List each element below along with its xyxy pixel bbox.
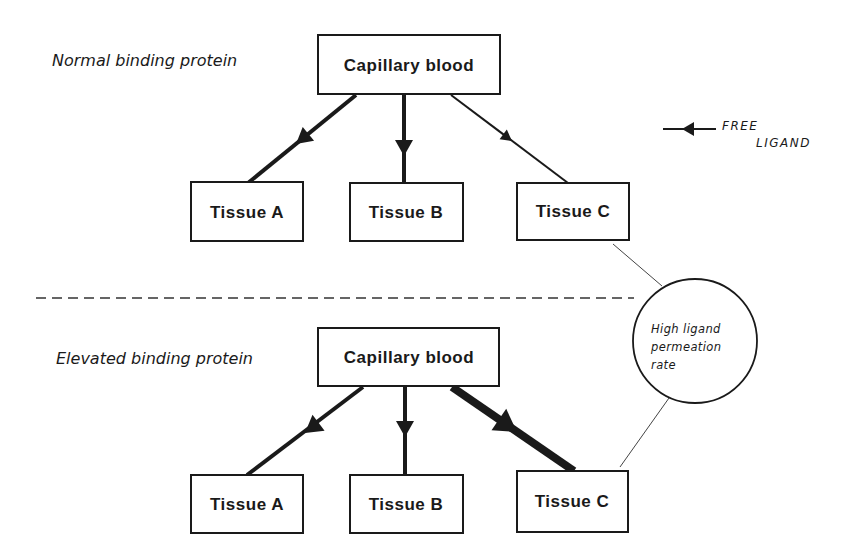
callout-permeation: High ligand permeation rate: [613, 244, 757, 467]
tissue-c-box: Tissue C: [517, 471, 628, 532]
panel-label-elevated: Elevated binding protein: [56, 349, 253, 368]
capillary-blood-label: Capillary blood: [344, 348, 474, 367]
legend-line-1: FREE: [722, 119, 758, 133]
leader-line-bottom: [620, 398, 669, 467]
capillary-blood-box: Capillary blood: [318, 328, 499, 386]
edge-blood-to-tissue-c: [452, 387, 574, 471]
callout-line-1: High ligand: [651, 322, 721, 336]
callout-line-3: rate: [651, 358, 676, 372]
tissue-b-label: Tissue B: [369, 495, 444, 514]
arrowhead-icon: [500, 130, 516, 146]
capillary-blood-label: Capillary blood: [344, 56, 474, 75]
tissue-b-box: Tissue B: [350, 475, 463, 533]
callout-line-2: permeation: [650, 340, 721, 354]
capillary-blood-box: Capillary blood: [318, 35, 500, 94]
edge-blood-to-tissue-a: [247, 387, 363, 475]
panel-elevated: Elevated binding protein Capillary blood…: [56, 328, 628, 533]
tissue-b-box: Tissue B: [350, 183, 463, 241]
edge-blood-to-tissue-b: [396, 387, 414, 475]
tissue-c-label: Tissue C: [535, 492, 610, 511]
edge-blood-to-tissue-b: [395, 95, 413, 183]
tissue-a-box: Tissue A: [191, 182, 303, 241]
tissue-a-label: Tissue A: [210, 203, 284, 222]
edge-blood-to-tissue-c: [451, 95, 568, 183]
panel-normal: Normal binding protein Capillary blood T…: [52, 35, 629, 241]
arrowhead-icon: [395, 140, 413, 156]
tissue-a-box: Tissue A: [191, 475, 303, 533]
edge-blood-to-tissue-a: [248, 95, 356, 183]
arrowhead-icon: [396, 421, 414, 437]
leader-line-top: [613, 244, 662, 286]
tissue-b-label: Tissue B: [369, 203, 444, 222]
legend-free-ligand: FREE LIGAND: [663, 119, 811, 150]
tissue-c-label: Tissue C: [536, 202, 611, 221]
tissue-c-box: Tissue C: [517, 183, 629, 240]
tissue-a-label: Tissue A: [210, 495, 284, 514]
arrow-left-icon: [682, 122, 694, 136]
diagram-canvas: Normal binding protein Capillary blood T…: [0, 0, 861, 560]
panel-label-normal: Normal binding protein: [52, 51, 237, 70]
legend-line-2: LIGAND: [756, 136, 811, 150]
